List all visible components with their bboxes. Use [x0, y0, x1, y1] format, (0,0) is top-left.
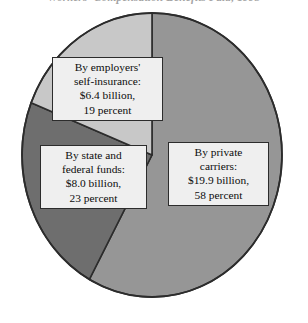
callout-private-line3: $19.9 billion,: [174, 173, 263, 187]
callout-employers-line1: By employers': [58, 60, 157, 74]
callout-state-and-federal-funds: By state and federal funds: $8.0 billion…: [40, 145, 147, 209]
callout-employers-line2: self-insurance:: [58, 74, 157, 88]
callout-private-line1: By private: [174, 145, 263, 159]
callout-employers-self-insurance: By employers' self-insurance: $6.4 billi…: [52, 57, 163, 121]
callout-private-line4: 58 percent: [174, 188, 263, 202]
callout-state-line2: federal funds:: [46, 162, 141, 176]
pie-chart-figure: Workers' Compensation Benefits Paid, 199…: [0, 0, 308, 323]
callout-employers-line4: 19 percent: [58, 103, 157, 117]
callout-state-line4: 23 percent: [46, 191, 141, 205]
callout-private-line2: carriers:: [174, 159, 263, 173]
callout-private-carriers: By private carriers: $19.9 billion, 58 p…: [168, 142, 269, 206]
callout-state-line1: By state and: [46, 148, 141, 162]
callout-employers-line3: $6.4 billion,: [58, 88, 157, 102]
callout-state-line3: $8.0 billion,: [46, 176, 141, 190]
